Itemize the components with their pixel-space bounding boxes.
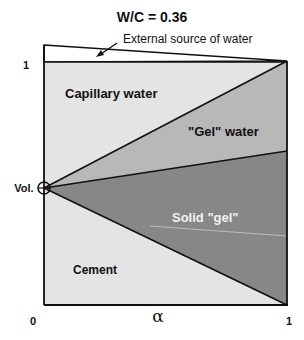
y-tick-1: 1 bbox=[23, 59, 29, 71]
diagram-title: W/C = 0.36 bbox=[117, 9, 188, 25]
y-axis-label: Vol. bbox=[14, 182, 33, 194]
wc-hydration-diagram: W/C = 0.36 External source of water 1 Vo… bbox=[0, 0, 304, 340]
gel-water-label: "Gel" water bbox=[188, 124, 259, 139]
x-tick-0: 0 bbox=[30, 315, 36, 327]
external-source-label: External source of water bbox=[123, 32, 252, 46]
solid-gel-label: Solid "gel" bbox=[172, 210, 239, 225]
cement-label: Cement bbox=[73, 263, 117, 277]
capillary-water-label: Capillary water bbox=[65, 86, 158, 101]
external-water-wedge bbox=[44, 45, 287, 62]
x-axis-label-alpha: α bbox=[152, 306, 164, 326]
x-tick-1: 1 bbox=[286, 315, 292, 327]
